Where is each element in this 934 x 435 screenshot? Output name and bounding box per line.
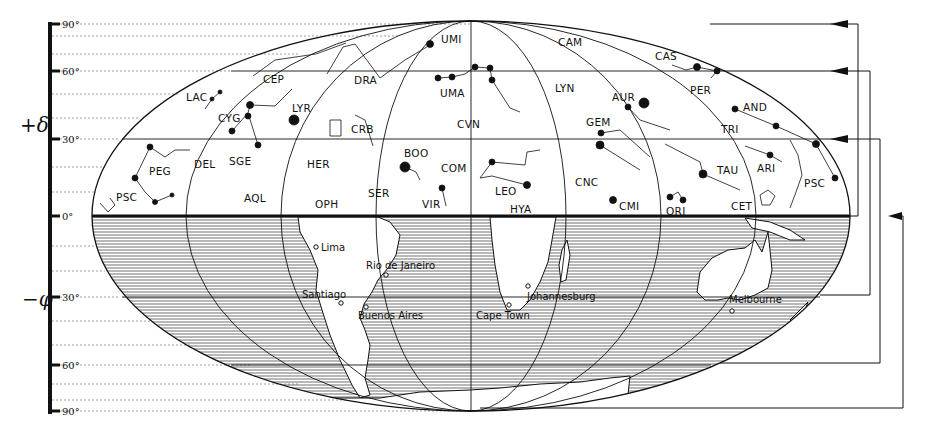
label-leo: LEO [495, 185, 517, 197]
label-tri: TRI [720, 123, 739, 135]
label-umi: UMI [441, 33, 462, 45]
label-her: HER [307, 158, 330, 170]
phi-symbol: −φ [22, 287, 53, 311]
city-rio: Rio de Janeiro [366, 260, 435, 271]
label-and: AND [743, 101, 767, 113]
label-aql: AQL [244, 192, 266, 204]
label-cyg: CYG [218, 112, 241, 124]
label-psc-west: PSC [116, 191, 137, 203]
city-lima: Lima [321, 242, 345, 253]
latitude-axis: 90° 60° 30° 0° 30° 60° 90° +δ −φ [20, 19, 80, 417]
label-vir: VIR [422, 198, 440, 210]
arrowheads [830, 20, 902, 220]
city-cape-town: Cape Town [476, 310, 530, 321]
label-cet: CET [731, 200, 753, 212]
label-lac: LAC [186, 91, 207, 103]
arrowhead-0 [888, 212, 902, 220]
tick-90n: 90° [62, 19, 80, 30]
label-aur: AUR [612, 91, 635, 103]
city-johannesburg: Johannesburg [526, 291, 596, 302]
tick-60s: 60° [62, 360, 80, 371]
label-oph: OPH [315, 198, 338, 210]
label-boo: BOO [404, 147, 428, 159]
label-lyn: LYN [555, 82, 575, 94]
label-cep: CEP [263, 73, 284, 85]
label-cam: CAM [558, 36, 582, 48]
label-hya: HYA [510, 203, 532, 215]
label-ari: ARI [757, 162, 775, 174]
delta-symbol: +δ [20, 113, 49, 137]
tick-90s: 90° [62, 406, 80, 417]
label-com: COM [441, 162, 467, 174]
star-map-diagram: 90° 60° 30° 0° 30° 60° 90° +δ −φ [0, 0, 934, 435]
label-gem: GEM [586, 116, 611, 128]
label-tau: TAU [716, 164, 738, 176]
label-ser: SER [368, 187, 390, 199]
label-peg: PEG [149, 165, 171, 177]
label-sge: SGE [229, 155, 251, 167]
label-psc-east: PSC [804, 177, 825, 189]
tick-0: 0° [62, 211, 73, 222]
label-lyr: LYR [292, 102, 311, 114]
arrowhead-90 [830, 20, 848, 28]
label-del: DEL [194, 158, 215, 170]
tick-30n: 30° [62, 134, 80, 145]
label-dra: DRA [354, 74, 378, 86]
tick-60n: 60° [62, 66, 80, 77]
arrowhead-30 [830, 135, 848, 143]
label-uma: UMA [440, 87, 465, 99]
city-santiago: Santiago [302, 289, 346, 300]
label-cas: CAS [655, 50, 677, 62]
label-ori: ORI [666, 205, 686, 217]
city-buenos-aires: Buenos Aires [358, 310, 423, 321]
label-crb: CRB [351, 123, 374, 135]
tick-30s: 30° [62, 292, 80, 303]
city-melbourne: Melbourne [729, 294, 782, 305]
label-cmi: CMI [619, 200, 639, 212]
label-cnc: CNC [575, 176, 598, 188]
label-per: PER [690, 84, 711, 96]
arrowhead-60 [830, 67, 848, 75]
label-cvn: CVN [457, 118, 480, 130]
